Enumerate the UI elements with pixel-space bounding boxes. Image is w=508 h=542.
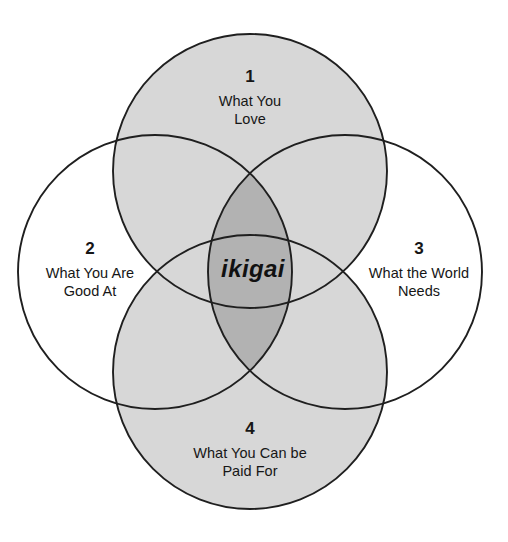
ikigai-diagram: 1 What You Love 2 What You Are Good At 3… (0, 0, 508, 542)
venn-diagram-graphic (0, 0, 508, 542)
